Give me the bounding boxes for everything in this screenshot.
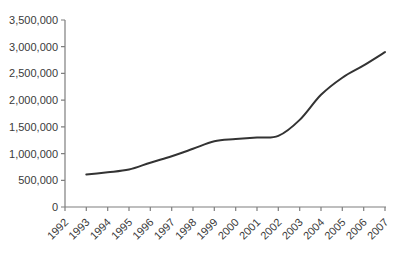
x-tick-label: 1997: [151, 216, 177, 242]
x-tick-label: 2000: [215, 216, 241, 242]
x-tick-label: 1996: [130, 216, 156, 242]
x-tick-label: 1993: [66, 216, 92, 242]
x-tick-label: 2004: [301, 216, 327, 242]
chart-container: 0500,0001,000,0001,500,0002,000,0002,500…: [0, 0, 395, 255]
data-line: [86, 52, 385, 174]
y-tick-label: 500,000: [18, 174, 58, 186]
x-tick-label: 2006: [343, 216, 369, 242]
y-tick-label: 1,000,000: [9, 148, 58, 160]
line-chart: 0500,0001,000,0001,500,0002,000,0002,500…: [0, 0, 395, 255]
y-tick-label: 1,500,000: [9, 121, 58, 133]
y-axis-labels: 0500,0001,000,0001,500,0002,000,0002,500…: [9, 14, 58, 213]
y-tick-label: 2,000,000: [9, 94, 58, 106]
x-tick-label: 1994: [87, 216, 113, 242]
x-axis-labels: 1992199319941995199619971998199920002001…: [45, 216, 391, 242]
x-tick-label: 1998: [173, 216, 199, 242]
data-series: [86, 52, 385, 174]
x-tick-label: 1992: [45, 216, 71, 242]
x-tick-label: 1995: [109, 216, 135, 242]
x-tick-label: 2002: [258, 216, 284, 242]
y-tick-label: 3,000,000: [9, 41, 58, 53]
x-tick-label: 1999: [194, 216, 220, 242]
y-tick-label: 3,500,000: [9, 14, 58, 26]
x-tick-label: 2007: [365, 216, 391, 242]
y-tick-label: 2,500,000: [9, 67, 58, 79]
x-tick-label: 2003: [279, 216, 305, 242]
axes: [61, 20, 386, 211]
x-tick-label: 2001: [237, 216, 263, 242]
y-tick-label: 0: [52, 201, 58, 213]
x-tick-label: 2005: [322, 216, 348, 242]
